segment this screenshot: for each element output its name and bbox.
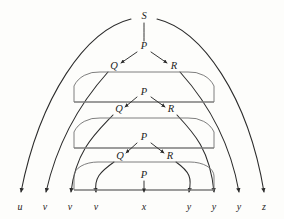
arc-r3-to-y — [176, 162, 190, 192]
arc-r2-to-y — [177, 115, 214, 192]
node-label-p-3: P — [140, 131, 148, 142]
leaf-label-3: v — [68, 201, 73, 212]
node-label-p-1: P — [140, 40, 148, 51]
derivation-diagram: S P Q R P Q R P Q R P u v v v x y y y z — [0, 0, 284, 219]
node-label-r-2: R — [167, 103, 175, 114]
arc-r1-to-y — [180, 72, 239, 192]
arc-q3-to-v — [96, 162, 114, 192]
node-label-q-1: Q — [110, 60, 118, 71]
edge-p1-to-q1 — [121, 52, 137, 63]
leaf-label-2: v — [43, 201, 48, 212]
node-label-s: S — [141, 10, 147, 21]
edge-p1-to-r1 — [151, 52, 167, 63]
node-label-p-2: P — [140, 86, 148, 97]
leaf-label-6: y — [186, 201, 192, 212]
leaf-label-5: x — [141, 201, 147, 212]
node-label-q-3: Q — [116, 150, 124, 161]
node-label-r-3: R — [166, 150, 174, 161]
leaf-label-1: u — [18, 201, 23, 212]
node-label-q-2: Q — [115, 103, 123, 114]
leaf-label-7: y — [211, 201, 217, 212]
leaf-label-8: y — [236, 201, 242, 212]
leaf-labels: u v v v x y y y z — [18, 201, 267, 212]
leaf-label-4: v — [94, 201, 99, 212]
node-label-p-4: P — [140, 169, 148, 180]
tree-canvas: S P Q R P Q R P Q R P u v v v x y y y z — [0, 0, 284, 219]
edge-group-level-3 — [96, 143, 191, 192]
arc-q1-to-v — [46, 72, 108, 192]
leaf-label-9: z — [261, 201, 266, 212]
node-label-r-1: R — [170, 60, 178, 71]
